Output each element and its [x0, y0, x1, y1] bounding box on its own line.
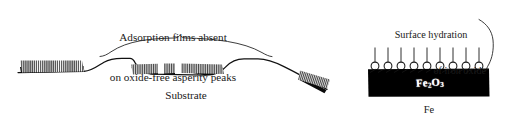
caption-surface-hydration-line2: of iron oxide: [370, 65, 492, 77]
caption-adsorption-films-line2: on oxide-free asperity peaks: [88, 71, 258, 84]
label-iron-metal: Fe: [400, 104, 458, 116]
formula-sub-3: 3: [440, 80, 444, 89]
formula-fe: Fe: [416, 77, 428, 89]
caption-surface-hydration-line1: Surface hydration: [370, 29, 492, 41]
label-substrate: Substrate: [138, 89, 234, 102]
tribology-diagram: Adsorption films absent on oxide-free as…: [0, 0, 510, 123]
formula-o: O: [431, 76, 440, 87]
caption-adsorption-films-line1: Adsorption films absent: [88, 31, 258, 44]
